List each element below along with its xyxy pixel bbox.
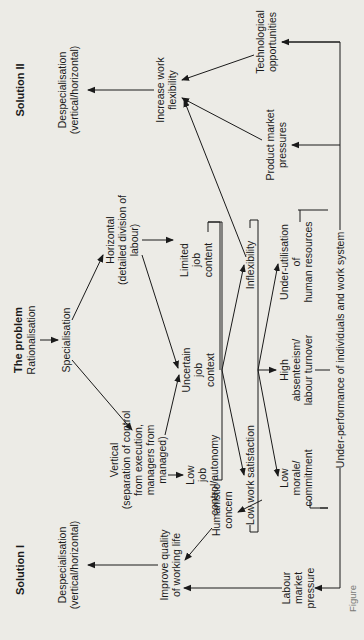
- node-despecialisation-1: Despecialisation (vertical/horizontal): [56, 521, 80, 610]
- svg-text:concern: concern: [222, 491, 234, 529]
- svg-text:(vertical/horizontal): (vertical/horizontal): [68, 46, 80, 135]
- svg-text:Increase work: Increase work: [154, 57, 166, 123]
- svg-text:managed): managed): [156, 436, 168, 483]
- svg-text:job: job: [190, 253, 202, 268]
- node-uncertain-job-context: Uncertain job context: [180, 347, 216, 392]
- svg-text:content: content: [202, 243, 214, 278]
- svg-text:pressures: pressures: [276, 122, 288, 168]
- node-high-absenteeism: High absenteeism/ labour turnover: [278, 334, 314, 405]
- node-low-morale: Low morale/ commitment: [278, 449, 314, 506]
- svg-text:commitment: commitment: [302, 449, 314, 506]
- node-humanistic-concern: Humanistic concern: [210, 484, 234, 536]
- node-horizontal: Horizontal (detailed division of labour): [104, 195, 140, 285]
- node-under-utilisation: Under-utilisation of human resources: [278, 221, 314, 302]
- node-improve-qwl: Improve quality of working life: [158, 529, 182, 601]
- svg-text:(separation of control: (separation of control: [120, 411, 132, 510]
- svg-text:Despecialisation: Despecialisation: [56, 527, 68, 604]
- svg-text:job: job: [196, 468, 208, 483]
- svg-text:Improve quality: Improve quality: [158, 529, 170, 601]
- svg-text:High: High: [278, 359, 290, 381]
- svg-text:managers from: managers from: [144, 424, 156, 495]
- svg-text:Product market: Product market: [264, 109, 276, 180]
- svg-text:Despecialisation: Despecialisation: [56, 52, 68, 129]
- node-despecialisation-2: Despecialisation (vertical/horizontal): [56, 46, 80, 135]
- svg-text:Under-utilisation: Under-utilisation: [278, 224, 290, 300]
- svg-text:morale/: morale/: [290, 460, 302, 495]
- node-increase-flexibility: Increase work flexibility: [154, 57, 178, 123]
- svg-text:Low: Low: [184, 465, 196, 485]
- svg-text:human resources: human resources: [302, 221, 314, 302]
- node-limited-job-content: Limited job content: [178, 243, 214, 278]
- node-specialisation: Specialisation: [60, 307, 72, 372]
- svg-text:market: market: [292, 572, 304, 604]
- figure-caption: Figure: [347, 585, 358, 612]
- svg-text:flexibility: flexibility: [166, 69, 178, 109]
- heading-solution-1: Solution I: [14, 545, 26, 595]
- node-under-performance: Under-performance of individuals and wor…: [334, 232, 346, 469]
- svg-text:Horizontal: Horizontal: [104, 216, 116, 263]
- heading-problem: The problem: [12, 307, 24, 373]
- heading-solution-2: Solution II: [14, 63, 26, 116]
- node-inflexibility: Inflexibility: [244, 240, 256, 289]
- svg-text:Low: Low: [278, 468, 290, 488]
- svg-text:of working life: of working life: [170, 533, 182, 597]
- node-rationalisation: Rationalisation: [25, 305, 37, 374]
- rotated-diagram: Solution I The problem Solution II Ratio…: [0, 0, 364, 640]
- node-product-market-pressures: Product market pressures: [264, 109, 288, 180]
- svg-text:(detailed division of: (detailed division of: [116, 195, 128, 285]
- node-technological-opportunities: Technological opportunities: [254, 10, 278, 74]
- svg-text:labour turnover: labour turnover: [302, 334, 314, 405]
- node-vertical: Vertical (separation of control from exe…: [108, 411, 168, 510]
- node-low-work-satisfaction: Low work satisfaction: [244, 425, 256, 525]
- svg-text:Uncertain: Uncertain: [180, 347, 192, 392]
- svg-text:pressure: pressure: [304, 567, 316, 608]
- node-labour-market-pressure: Labour market pressure: [280, 567, 316, 608]
- svg-text:from execution,: from execution,: [132, 424, 144, 496]
- svg-text:Vertical: Vertical: [108, 443, 120, 477]
- svg-text:context: context: [204, 353, 216, 387]
- svg-text:absenteeism/: absenteeism/: [290, 339, 302, 402]
- work-design-diagram: Solution I The problem Solution II Ratio…: [0, 0, 364, 640]
- svg-text:opportunities: opportunities: [266, 12, 278, 72]
- svg-text:of: of: [290, 258, 302, 267]
- svg-text:job: job: [192, 363, 204, 378]
- svg-text:labour): labour): [128, 224, 140, 257]
- svg-text:Limited: Limited: [178, 243, 190, 277]
- svg-text:Technological: Technological: [254, 10, 266, 74]
- svg-text:(vertical/horizontal): (vertical/horizontal): [68, 521, 80, 610]
